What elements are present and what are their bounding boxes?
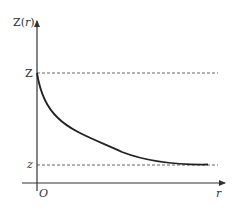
decay-curve [37,73,208,165]
z-of-r-diagram: Z(r) Z z O r [0,0,240,209]
y-axis-label: Z(r) [13,16,35,29]
x-axis-label: r [216,187,222,200]
upper-level-label: Z [25,67,33,80]
origin-label: O [39,187,48,200]
lower-level-label: z [26,158,33,171]
